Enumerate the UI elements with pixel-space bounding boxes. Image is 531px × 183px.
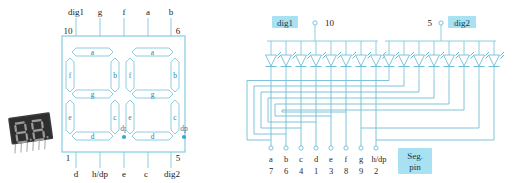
pinout-pin-number-1: 1	[66, 153, 71, 163]
segment-pin-number-hdp: 2	[374, 166, 378, 176]
segment-pin-node-hdp	[374, 146, 378, 150]
pinout-pin-number-6: 6	[176, 26, 181, 36]
led-symbol	[399, 52, 415, 80]
segment-label-f: f	[345, 154, 348, 164]
led-array	[266, 52, 505, 80]
dig1-led-anode-stubs	[271, 41, 376, 55]
segment-pin-node-b	[284, 146, 288, 150]
led-symbol	[459, 52, 475, 80]
led-symbol	[489, 52, 505, 80]
segment-pin-node-c	[299, 146, 303, 150]
segment-label-hdp: h/dp	[371, 154, 386, 164]
pinout-digit-2: a f b g e c d dp	[126, 48, 188, 141]
segment-pin-number-b: 6	[284, 166, 288, 176]
decimal-point-dot	[182, 135, 186, 139]
led-symbol	[296, 52, 312, 80]
seg-pin-box-line2: pin	[409, 162, 421, 172]
led-symbol	[356, 52, 372, 80]
dig1-pin-node	[313, 21, 317, 25]
seg-label-b: b	[113, 71, 117, 80]
pinout-bottom-label-hdp: h/dp	[92, 169, 109, 179]
seg-label-dp: dp	[180, 124, 188, 133]
figure-root: a f b g e c d dp a	[0, 0, 531, 183]
segment-pin-node-g	[359, 146, 363, 150]
segment-pin-number-a: 7	[269, 166, 273, 176]
dig1-label: dig1	[277, 18, 293, 28]
led-symbol	[266, 52, 282, 80]
segment-label-a: a	[269, 154, 273, 164]
bottom-leads	[76, 152, 171, 168]
dig2-label: dig2	[454, 18, 470, 28]
seg-label-g: g	[151, 90, 155, 99]
dig2-led-anode-stubs	[389, 41, 494, 55]
dual-seven-segment-display-photo	[8, 112, 55, 153]
pinout-bottom-label-c: c	[144, 169, 148, 179]
segment-label-d: d	[314, 154, 319, 164]
decimal-point-dot	[122, 135, 126, 139]
segment-pin-node-f	[344, 146, 348, 150]
segment-label-e: e	[329, 154, 333, 164]
segment-label-c: c	[299, 154, 303, 164]
dig2-pin-node	[439, 21, 443, 25]
segment-pin-node-a	[269, 146, 273, 150]
pinout-pin-number-5: 5	[176, 153, 181, 163]
figure-svg: a f b g e c d dp a	[0, 0, 531, 183]
segment-bus-wiring	[247, 80, 494, 146]
seg-label-d: d	[151, 132, 155, 141]
led-symbol	[474, 52, 490, 80]
led-symbol	[429, 52, 445, 80]
seg-label-g: g	[91, 90, 95, 99]
segment-pin-node-e	[329, 146, 333, 150]
segment-label-b: b	[284, 154, 288, 164]
seg-label-b: b	[173, 71, 177, 80]
seg-pin-box-line1: Seg.	[407, 151, 423, 161]
segment-pin-number-e: 3	[329, 166, 333, 176]
pinout-top-label-f: f	[123, 7, 126, 17]
led-symbol	[326, 52, 342, 80]
seg-label-d: d	[91, 132, 95, 141]
segment-label-g: g	[359, 154, 364, 164]
top-leads	[76, 18, 171, 36]
internal-led-schematic: dig1 10 dig2 5	[247, 16, 504, 176]
segment-pin-node-d	[314, 146, 318, 150]
dig2-pin-number: 5	[428, 18, 433, 28]
pinout-top-label-b: b	[169, 7, 174, 17]
pinout-top-label-a: a	[146, 7, 150, 17]
segment-pin-terminals	[269, 146, 378, 150]
segment-pin-number-g: 9	[359, 166, 363, 176]
segment-pin-number-d: 1	[314, 166, 318, 176]
pinout-pin-number-10: 10	[64, 26, 74, 36]
led-symbol	[414, 52, 430, 80]
dig1-pin-number: 10	[325, 18, 335, 28]
segment-pin-number-f: 8	[344, 166, 348, 176]
pinout-digit-1: a f b g e c d dp	[66, 48, 128, 141]
pinout-bottom-label-d: d	[74, 169, 79, 179]
led-symbol	[341, 52, 357, 80]
led-symbol	[311, 52, 327, 80]
led-symbol	[281, 52, 297, 80]
pinout-bottom-label-dig2: dig2	[164, 169, 180, 179]
pinout-top-label-dig1: dig1	[68, 7, 84, 17]
pinout-top-label-g: g	[98, 7, 103, 17]
led-symbol	[384, 52, 400, 80]
pinout-bottom-label-e: e	[122, 169, 126, 179]
dig2-common-rail	[385, 21, 496, 41]
led-symbol	[444, 52, 460, 80]
package-pinout: a f b g e c d dp a	[62, 7, 188, 179]
segment-pin-number-c: 4	[299, 166, 304, 176]
